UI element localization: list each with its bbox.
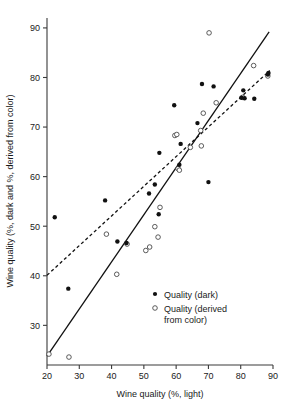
data-point-derived <box>67 355 72 360</box>
y-tick-label: 30 <box>30 321 40 331</box>
scatter-chart: 2030405060708090 30405060708090 Wine qua… <box>0 0 288 412</box>
data-point-derived <box>156 235 161 240</box>
legend-label-dark: Quality (dark) <box>164 290 218 300</box>
legend-label-derived-line2: from color) <box>164 315 207 325</box>
y-tick-label: 60 <box>30 172 40 182</box>
data-point-dark <box>157 212 161 216</box>
data-point-dark <box>200 82 204 86</box>
data-point-dark <box>172 103 176 107</box>
x-tick-label: 70 <box>203 371 213 381</box>
y-tick-label: 70 <box>30 122 40 132</box>
data-point-dark <box>252 97 256 101</box>
data-point-derived <box>251 63 256 68</box>
data-point-derived <box>104 232 109 237</box>
data-point-derived <box>114 272 119 277</box>
data-point-dark <box>124 241 128 245</box>
data-point-dark <box>242 96 246 100</box>
y-tick-label: 40 <box>30 271 40 281</box>
data-point-derived <box>174 132 179 137</box>
y-axis-title-text: Wine quality (%, dark and %, derived fro… <box>5 94 15 287</box>
data-point-dark <box>206 180 210 184</box>
data-point-derived <box>47 352 52 357</box>
data-point-dark <box>241 88 245 92</box>
x-tick-label: 90 <box>268 371 278 381</box>
data-point-dark <box>115 239 119 243</box>
data-point-derived <box>143 248 148 253</box>
data-point-dark <box>147 191 151 195</box>
x-tick-label: 80 <box>236 371 246 381</box>
data-point-dark <box>266 71 270 75</box>
data-point-dark <box>103 198 107 202</box>
data-point-dark <box>157 151 161 155</box>
data-point-derived <box>214 100 219 105</box>
data-point-dark <box>195 121 199 125</box>
y-axis-title: Wine quality (%, dark and %, derived fro… <box>5 94 15 287</box>
y-tick-label: 90 <box>30 23 40 33</box>
x-tick-label: 20 <box>42 371 52 381</box>
data-point-derived <box>188 145 193 150</box>
data-point-dark <box>66 286 70 290</box>
data-point-dark <box>177 163 181 167</box>
x-axis-title-text: Wine quality (%, light) <box>116 389 203 399</box>
data-point-derived <box>199 144 204 149</box>
data-point-derived <box>177 168 182 173</box>
data-point-derived <box>207 31 212 36</box>
x-axis-title: Wine quality (%, light) <box>116 389 203 399</box>
x-tick-label: 50 <box>139 371 149 381</box>
data-point-dark <box>178 142 182 146</box>
data-point-derived <box>147 245 152 250</box>
data-point-derived <box>201 111 206 116</box>
y-tick-label: 80 <box>30 73 40 83</box>
legend-label-derived-line1: Quality (derived <box>164 304 227 314</box>
x-tick-label: 30 <box>74 371 84 381</box>
legend-marker-dark <box>153 292 157 296</box>
x-tick-label: 40 <box>107 371 117 381</box>
data-point-derived <box>158 205 163 210</box>
data-point-dark <box>53 215 57 219</box>
data-point-derived <box>153 224 158 229</box>
data-point-dark <box>153 182 157 186</box>
chart-background <box>0 0 288 412</box>
x-tick-label: 60 <box>171 371 181 381</box>
data-point-dark <box>211 84 215 88</box>
y-tick-label: 50 <box>30 222 40 232</box>
legend-marker-derived <box>153 306 158 311</box>
data-point-derived <box>198 128 203 133</box>
